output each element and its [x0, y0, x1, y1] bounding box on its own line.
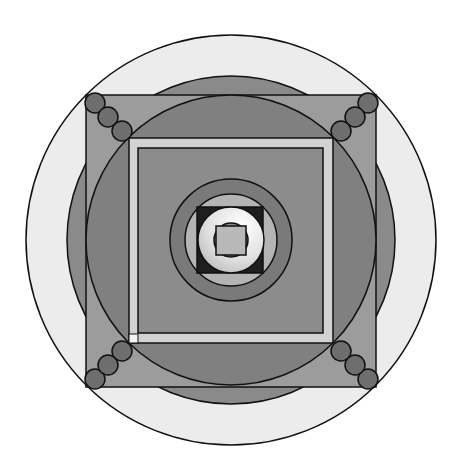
corner-dot-bottom-right-3: [331, 341, 351, 361]
corner-dot-top-right-3: [331, 121, 351, 141]
mandala-diagram: [0, 0, 462, 474]
core-square: [216, 226, 246, 255]
frame-corner-marker: [129, 334, 138, 343]
corner-dot-bottom-left-3: [112, 341, 132, 361]
